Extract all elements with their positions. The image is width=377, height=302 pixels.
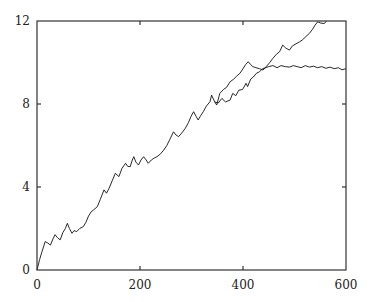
x-tick-label: 400 (232, 278, 255, 292)
axes-frame (37, 21, 346, 270)
x-tick-labels: 0200400600 (33, 278, 357, 292)
y-tick-label: 0 (22, 263, 30, 277)
y-tick-labels: 04812 (15, 14, 31, 277)
x-tick-label: 0 (33, 278, 41, 292)
line-chart: 0200400600 04812 (0, 0, 377, 302)
plot-series (37, 21, 346, 270)
y-tick-label: 4 (22, 180, 30, 194)
ticks (37, 21, 346, 270)
x-tick-label: 200 (129, 278, 152, 292)
x-tick-label: 600 (335, 278, 358, 292)
series-line-curve-rising (37, 21, 326, 270)
y-tick-label: 8 (22, 97, 30, 111)
series-line-curve-saturating (215, 66, 346, 103)
y-tick-label: 12 (15, 14, 30, 28)
